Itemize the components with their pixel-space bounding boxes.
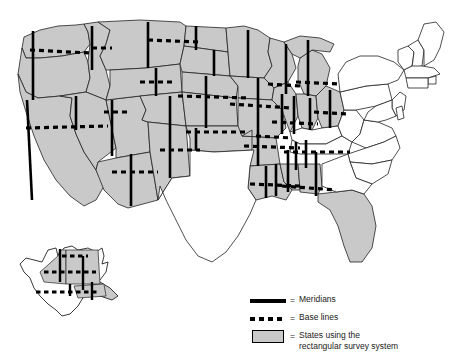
legend-equals-sign-meridians: = [290,294,299,306]
map-legend: = Meridians = Base lines = States using … [246,294,451,354]
legend-equals-sign-survey-states: = [290,330,299,342]
legend-item-meridians: = Meridians [246,294,451,307]
legend-symbol-meridian-line [246,294,290,307]
legend-label-survey-states-line2: rectangular survey system [299,341,398,351]
legend-equals-sign-base-lines: = [290,312,299,324]
legend-label-base-lines: Base lines [299,312,338,323]
legend-label-survey-states-line1: States using the [299,330,360,340]
legend-symbol-base-line [246,312,290,325]
state-connecticut [406,78,428,88]
state-montana [98,20,186,70]
legend-item-survey-states: = States using the rectangular survey sy… [246,330,451,351]
map-figure: = Meridians = Base lines = States using … [0,0,456,354]
legend-symbol-gray-swatch [246,330,290,343]
legend-label-survey-states: States using the rectangular survey syst… [299,330,398,351]
legend-item-base-lines: = Base lines [246,312,451,325]
legend-label-meridians: Meridians [299,294,336,305]
